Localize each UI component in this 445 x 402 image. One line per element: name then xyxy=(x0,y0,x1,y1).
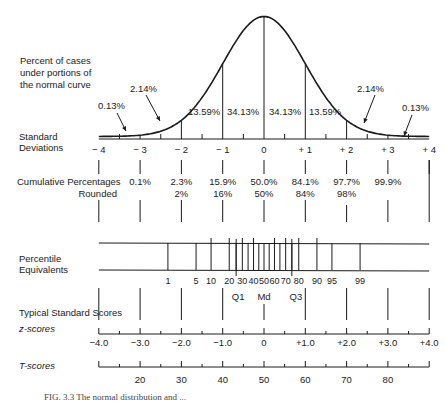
sd-tick-label: 0 xyxy=(261,144,266,155)
percentile-tick-label: 20 xyxy=(224,276,234,286)
area-pct-tail: 2.14% xyxy=(130,83,157,94)
sd-label: Standard xyxy=(19,131,58,142)
t-tick-label: 40 xyxy=(217,374,228,385)
z-tick-label: −3.0 xyxy=(131,337,150,348)
t-tick-label: 70 xyxy=(341,374,352,385)
area-pct-tail: 0.13% xyxy=(98,100,125,111)
cumulative-pct: 99.9% xyxy=(374,176,401,187)
t-tick-label: 80 xyxy=(383,374,394,385)
z-tick-label: −2.0 xyxy=(172,337,191,348)
t-tick-label: 30 xyxy=(176,374,187,385)
cumulative-pct: 97.7% xyxy=(333,176,360,187)
area-pct: 13.59% xyxy=(188,106,221,117)
curve-label: the normal curve xyxy=(20,79,91,90)
percentile-tick-label: 80 xyxy=(294,276,304,286)
standard-deviation-axis: StandardDeviations− 4− 3− 2− 10+ 1+ 2+ 3… xyxy=(19,131,436,174)
percentile-tick-label: 99 xyxy=(355,276,365,286)
t-tick-label: 20 xyxy=(135,374,146,385)
cumulative-pct: 0.1% xyxy=(129,176,151,187)
area-pct-tail: 0.13% xyxy=(402,102,429,113)
percentile-tick-label: 95 xyxy=(327,276,337,286)
z-tick-label: −1.0 xyxy=(213,337,232,348)
percentile-tick-label: 90 xyxy=(312,276,322,286)
sd-label: Deviations xyxy=(19,142,64,153)
rounded-pct: 2% xyxy=(175,188,189,199)
percentile-equivalents-band: PercentileEquivalents1510203040506070809… xyxy=(19,238,429,320)
percentile-label: Equivalents xyxy=(19,264,68,275)
cumulative-label: Cumulative Percentages xyxy=(17,176,121,187)
t-tick-label: 50 xyxy=(259,374,270,385)
q3-label: Q3 xyxy=(290,291,303,302)
sd-tick-label: − 3 xyxy=(133,144,146,155)
sd-tick-label: + 1 xyxy=(299,144,312,155)
band-bottom xyxy=(99,270,429,271)
z-tick-label: +4.0 xyxy=(420,337,439,348)
rounded-pct: 84% xyxy=(296,188,316,199)
z-tick-label: 0 xyxy=(261,337,266,348)
rounded-pct: 98% xyxy=(337,188,357,199)
rounded-pct: 50% xyxy=(254,188,274,199)
z-tick-label: −4.0 xyxy=(89,337,108,348)
sd-tick-label: + 2 xyxy=(340,144,353,155)
rounded-pct: 16% xyxy=(213,188,233,199)
percentile-label: Percentile xyxy=(19,253,61,264)
q1-label: Q1 xyxy=(232,291,245,302)
cumulative-pct: 15.9% xyxy=(209,176,236,187)
percentile-tick-label: 5 xyxy=(194,276,199,286)
z-tick-label: +3.0 xyxy=(379,337,398,348)
percentile-tick-label: 60 xyxy=(269,276,279,286)
sd-tick-label: − 2 xyxy=(175,144,188,155)
normal-distribution-chart: Percent of casesunder portions ofthe nor… xyxy=(0,0,445,402)
typical-scores-label: Typical Standard Scores xyxy=(19,307,122,318)
z-scores-axis: z-scores−4.0−3.0−2.0−1.00+1.0+2.0+3.0+4.… xyxy=(18,323,439,348)
cumulative-pct: 2.3% xyxy=(171,176,193,187)
median-label: Md xyxy=(257,291,270,302)
sd-tick-label: + 3 xyxy=(381,144,394,155)
area-pct-tail: 2.14% xyxy=(357,83,384,94)
sd-tick-label: + 4 xyxy=(422,144,435,155)
curve-label: Percent of cases xyxy=(20,55,91,66)
percentile-tick-label: 40 xyxy=(249,276,259,286)
percentile-tick-label: 30 xyxy=(237,276,247,286)
z-scores-label: z-scores xyxy=(18,323,55,334)
figure-caption: FIG. 3.3 The normal distribution and ... xyxy=(44,392,186,402)
arrow-line xyxy=(364,95,375,123)
area-pct: 34.13% xyxy=(227,106,260,117)
z-tick-label: +1.0 xyxy=(296,337,315,348)
percentile-tick-label: 50 xyxy=(259,276,269,286)
normal-curve: Percent of casesunder portions ofthe nor… xyxy=(20,17,429,140)
t-tick-label: 60 xyxy=(300,374,311,385)
t-scores-label: T-scores xyxy=(19,360,55,371)
percentile-tick-label: 1 xyxy=(165,276,170,286)
t-scores-axis: T-scores20304050607080 xyxy=(19,360,429,385)
cumulative-pct: 50.0% xyxy=(251,176,278,187)
percentile-tick-label: 70 xyxy=(281,276,291,286)
curve-label: under portions of xyxy=(20,67,92,78)
sd-tick-label: − 1 xyxy=(216,144,229,155)
area-pct: 13.59% xyxy=(309,106,342,117)
percentile-tick-label: 10 xyxy=(206,276,216,286)
area-pct: 34.13% xyxy=(269,106,302,117)
z-tick-label: +2.0 xyxy=(337,337,356,348)
cumulative-pct: 84.1% xyxy=(292,176,319,187)
rounded-label: Rounded xyxy=(78,188,117,199)
sd-tick-label: − 4 xyxy=(92,144,105,155)
